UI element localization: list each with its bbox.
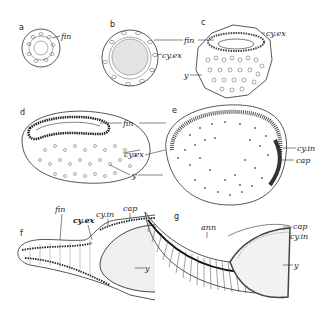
panel-label-g: g (174, 212, 179, 221)
panel-d: d fin cy.ex y (20, 108, 166, 183)
label-y-f: y (144, 264, 150, 273)
panel-c: c fin cy.ex y (183, 18, 286, 98)
label-fin: fin (60, 32, 72, 41)
label-y-c: y (183, 71, 189, 80)
panel-label-f: f (20, 229, 23, 238)
label-cap-e: cap (296, 156, 310, 165)
label-fin-f: fin (54, 205, 66, 214)
label-cap-f: cap (123, 204, 137, 213)
biological-illustration-plate: a fin b cy.ex c fin (0, 0, 331, 314)
label-cy-ex: cy.ex (162, 51, 182, 60)
label-cy-in-e: cy.in (297, 144, 315, 153)
label-cy-in-f: cy.in (96, 210, 114, 219)
label-cy-ex-c: cy.ex (266, 29, 286, 38)
panel-a: a fin (19, 23, 72, 67)
label-y-g: y (293, 261, 299, 270)
panel-g: g ann cap cy.in y (145, 212, 308, 298)
label-fin-d: fin (122, 119, 134, 128)
label-y-d: y (131, 171, 137, 180)
label-cy-in-g: cy.in (290, 232, 308, 241)
panel-f: f fin cy.ex cy.in cap y (18, 204, 155, 300)
panel-label-b: b (110, 20, 115, 29)
label-ann-g: ann (201, 223, 216, 232)
label-fin-shared: fin (183, 36, 195, 45)
label-cap-g: cap (293, 222, 307, 231)
panel-e: e cy.in cap (166, 105, 315, 205)
panel-b: b cy.ex (102, 20, 183, 86)
panel-label-c: c (201, 18, 205, 27)
panel-label-e: e (172, 106, 177, 115)
panel-label-d: d (20, 108, 25, 117)
panel-label-a: a (19, 23, 24, 32)
label-cy-ex-d: cy.ex (124, 150, 144, 159)
label-cy-ex-f: cy.ex (73, 215, 94, 225)
